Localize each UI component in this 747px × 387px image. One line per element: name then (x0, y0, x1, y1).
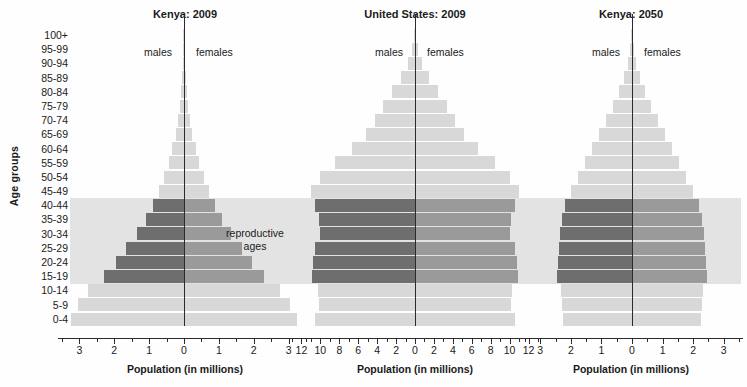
bar-male (153, 199, 184, 212)
pyramid-row (521, 71, 741, 85)
bar-male (558, 256, 632, 269)
pyramid-row (521, 227, 741, 241)
pyramid-panel: Kenya: 2050malesfemales3210123Population… (521, 0, 741, 387)
pyramid-row (60, 28, 310, 42)
x-axis-tick-label: 3 (67, 344, 91, 356)
pyramid-row (521, 142, 741, 156)
pyramid-row (60, 269, 310, 283)
x-axis-minor-tick (292, 338, 293, 342)
bar-male (401, 71, 415, 84)
pyramid-plot-area (521, 28, 741, 326)
pyramid-row (60, 312, 310, 326)
bar-female (632, 71, 640, 84)
bar-female (632, 270, 707, 283)
x-axis-minor-tick (481, 338, 482, 342)
x-axis-minor-tick (443, 338, 444, 342)
x-axis-minor-tick (271, 338, 272, 342)
bar-male (619, 85, 632, 98)
bar-male (313, 256, 415, 269)
pyramid-row (521, 127, 741, 141)
bar-female (184, 171, 204, 184)
bar-male (315, 242, 415, 255)
bar-male (559, 242, 632, 255)
x-axis-tick-label: 1 (207, 344, 231, 356)
pyramid-panel: United States: 2009malesfemales121086420… (290, 0, 540, 387)
x-axis-tick-label: 3 (712, 344, 736, 356)
bar-female (632, 256, 706, 269)
bar-female (415, 199, 515, 212)
x-axis-minor-tick (62, 338, 63, 342)
x-axis-tick-label: 2 (559, 344, 583, 356)
bar-female (184, 270, 264, 283)
bar-male (126, 242, 184, 255)
bar-female (415, 227, 510, 240)
bar-female (632, 227, 704, 240)
x-axis-minor-tick (519, 338, 520, 342)
bar-female (415, 171, 510, 184)
bar-female (632, 313, 701, 326)
bar-female (184, 213, 222, 226)
panel-title: Kenya: 2050 (521, 8, 741, 20)
bar-male (312, 270, 415, 283)
x-axis-minor-tick (330, 338, 331, 342)
x-axis-tick-label: 3 (528, 344, 552, 356)
x-axis-minor-tick (167, 338, 168, 342)
x-axis-tick-label: 2 (681, 344, 705, 356)
bar-male (315, 199, 415, 212)
population-pyramid-figure: Age groups 100+95-9990-9485-8980-8475-79… (0, 0, 747, 387)
bar-male (137, 227, 184, 240)
bar-male (606, 114, 632, 127)
bar-female (415, 256, 517, 269)
pyramid-row (521, 198, 741, 212)
bar-female (632, 114, 658, 127)
pyramid-row (60, 170, 310, 184)
bar-male (592, 142, 632, 155)
pyramid-row (60, 42, 310, 56)
bar-male (408, 57, 415, 70)
bar-female (632, 185, 693, 198)
bar-male (375, 114, 415, 127)
bar-female (184, 142, 196, 155)
pyramid-row (521, 56, 741, 70)
center-axis-line (415, 14, 416, 326)
bar-female (415, 242, 515, 255)
x-axis-label: Population (in millions) (521, 363, 741, 375)
x-axis-tick-label: 1 (137, 344, 161, 356)
pyramid-panel: Kenya: 2009malesfemales3210123Population… (60, 0, 310, 387)
x-axis-minor-tick (525, 338, 526, 342)
bar-male (176, 128, 184, 141)
pyramid-plot-area (60, 28, 310, 326)
x-axis-tick-label: 0 (172, 344, 196, 356)
bar-female (632, 298, 702, 311)
bar-male (320, 227, 415, 240)
x-axis-minor-tick (617, 338, 618, 342)
bar-female (632, 85, 645, 98)
pyramid-row (521, 213, 741, 227)
bar-male (585, 156, 632, 169)
reproductive-ages-label-line2: ages (200, 240, 310, 253)
x-axis-tick-label: 2 (102, 344, 126, 356)
pyramid-row (521, 284, 741, 298)
pyramid-row (60, 213, 310, 227)
pyramid-row (60, 127, 310, 141)
x-axis-minor-tick (236, 338, 237, 342)
center-axis-line (632, 14, 633, 326)
pyramid-row (521, 85, 741, 99)
bar-female (632, 128, 665, 141)
bar-male (104, 270, 184, 283)
bar-female (415, 128, 464, 141)
bar-male (578, 171, 632, 184)
x-axis-label: Population (in millions) (290, 363, 540, 375)
x-axis-minor-tick (368, 338, 369, 342)
pyramid-row (60, 142, 310, 156)
x-axis-tick-label: 2 (242, 344, 266, 356)
bar-male (613, 100, 632, 113)
bar-female (632, 100, 651, 113)
bar-female (184, 284, 280, 297)
bar-male (392, 85, 415, 98)
bar-male (557, 270, 632, 283)
bar-female (415, 71, 429, 84)
bar-female (415, 185, 519, 198)
bar-female (415, 156, 495, 169)
bar-female (415, 270, 518, 283)
